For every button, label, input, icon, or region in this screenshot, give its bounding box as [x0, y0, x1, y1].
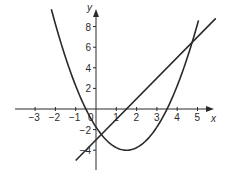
chart-area: −3−2−10123458642−2−4 x y — [0, 0, 227, 174]
y-tick-label: 4 — [85, 63, 91, 74]
x-tick-label: −3 — [28, 112, 40, 123]
x-tick-label: 2 — [134, 112, 140, 123]
y-axis-label: y — [86, 2, 93, 13]
y-axis-arrow-icon — [93, 9, 99, 17]
x-tick-label: −1 — [69, 112, 81, 123]
y-tick-label: 2 — [85, 83, 91, 94]
x-tick-label: −2 — [49, 112, 61, 123]
x-tick-label: 4 — [174, 112, 180, 123]
y-tick-label: 6 — [85, 42, 91, 53]
x-tick-label: 5 — [195, 112, 201, 123]
line-curve — [76, 18, 216, 160]
x-axis-arrow-icon — [206, 106, 214, 112]
ticks: −3−2−10123458642−2−4 — [28, 22, 200, 157]
y-tick-label: 8 — [85, 22, 91, 33]
y-tick-label: −2 — [80, 125, 92, 136]
curves — [51, 9, 215, 160]
x-axis-label: x — [210, 113, 217, 124]
x-tick-label: 3 — [154, 112, 160, 123]
graph-svg: −3−2−10123458642−2−4 x y — [0, 0, 227, 174]
parabola-curve — [51, 9, 198, 150]
